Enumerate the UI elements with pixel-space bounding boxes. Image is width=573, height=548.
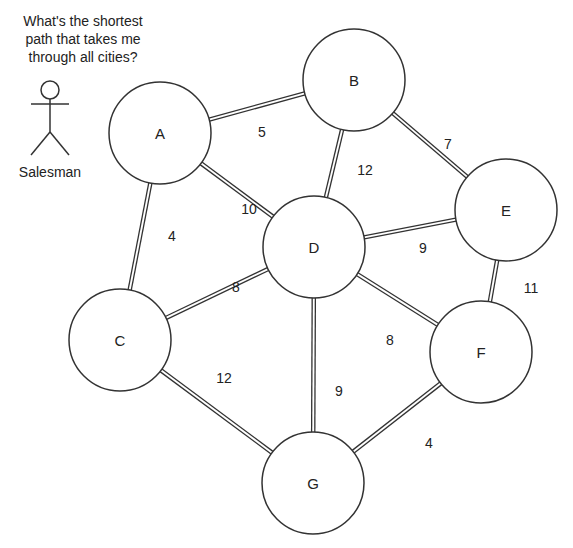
city-node-a: A <box>109 82 211 184</box>
city-node-b: B <box>303 29 405 131</box>
edge-a-c <box>128 183 152 290</box>
city-node-e: E <box>455 159 557 261</box>
edge-weight-label: 5 <box>258 124 266 140</box>
edge-weight-label: 10 <box>241 201 257 217</box>
edge-d-c <box>165 268 268 320</box>
edge-e-f <box>488 260 498 302</box>
city-label: C <box>115 332 126 349</box>
edge-weight-label: 8 <box>386 332 394 348</box>
city-label: E <box>501 202 511 219</box>
stick-figure-icon <box>31 81 69 155</box>
edge-weight-label: 12 <box>357 162 373 178</box>
edge-d-f <box>356 273 438 326</box>
edge-b-e <box>392 112 469 178</box>
city-label: G <box>307 475 319 492</box>
edge-weight-label: 4 <box>168 228 176 244</box>
edge-a-b <box>209 92 305 121</box>
edge-weight-label: 11 <box>524 280 539 296</box>
city-label: F <box>476 344 485 361</box>
edge-weight-label: 12 <box>216 370 232 386</box>
nodes-layer: ABCDEFG <box>69 29 557 534</box>
city-label: B <box>349 72 359 89</box>
edge-weight-label: 7 <box>444 136 452 152</box>
edge-weight-label: 8 <box>232 279 240 295</box>
city-node-d: D <box>263 196 365 298</box>
edge-d-e <box>364 218 456 239</box>
graph-canvas: ABCDEFG 5104127911889124 <box>0 0 573 548</box>
city-label: D <box>309 239 320 256</box>
edge-weight-label: 9 <box>419 240 427 256</box>
salesman-label: Salesman <box>0 164 100 180</box>
edge-weight-label: 4 <box>425 435 433 451</box>
edge-b-d <box>324 129 343 198</box>
city-node-f: F <box>430 301 532 403</box>
edge-weight-label: 9 <box>335 383 343 399</box>
edge-d-g <box>312 298 316 432</box>
city-label: A <box>155 125 165 142</box>
edge-a-d <box>200 162 274 218</box>
city-node-c: C <box>69 289 171 391</box>
city-node-g: G <box>262 432 364 534</box>
